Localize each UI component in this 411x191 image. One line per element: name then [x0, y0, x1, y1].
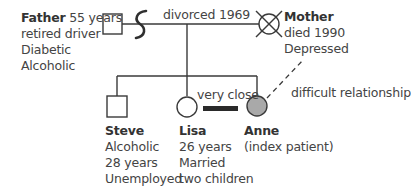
steve-condition: Alcoholic	[105, 139, 182, 155]
father-label: Father 55 years retired driver Diabetic …	[21, 10, 122, 74]
father-condition-1: Diabetic	[21, 42, 122, 58]
lisa-name: Lisa	[179, 123, 254, 139]
anne-name: Anne	[244, 123, 333, 139]
steve-label: Steve Alcoholic 28 years Unemployed	[105, 123, 182, 187]
mother-death: died 1990	[284, 25, 349, 41]
lisa-age: 26 years	[179, 139, 254, 155]
lisa-symbol	[177, 97, 197, 117]
steve-symbol	[107, 96, 127, 117]
very-close-bar	[203, 106, 238, 111]
difficult-relationship-label: difficult relationship	[291, 85, 411, 101]
mother-name: Mother	[284, 9, 349, 25]
steve-occupation: Unemployed	[105, 171, 182, 187]
mother-condition: Depressed	[284, 41, 349, 57]
lisa-children: two children	[179, 171, 254, 187]
lisa-status: Married	[179, 155, 254, 171]
steve-name: Steve	[105, 123, 182, 139]
very-close-label: very close	[197, 87, 259, 103]
mother-label: Mother died 1990 Depressed	[284, 9, 349, 57]
father-condition-2: Alcoholic	[21, 58, 122, 74]
father-name: Father	[21, 10, 66, 25]
father-age: 55 years	[69, 10, 122, 25]
steve-age: 28 years	[105, 155, 182, 171]
anne-label: Anne (index patient)	[244, 123, 333, 155]
anne-role: (index patient)	[244, 139, 333, 155]
marriage-label: divorced 1969	[163, 7, 250, 23]
lisa-label: Lisa 26 years Married two children	[179, 123, 254, 187]
father-occupation: retired driver	[21, 26, 122, 42]
